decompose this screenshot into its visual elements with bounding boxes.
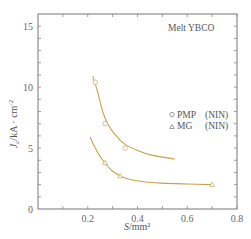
fit-curve-mg: [90, 137, 212, 185]
x-tick-label: 0.6: [181, 213, 194, 224]
legend-item-mg: MG (NIN): [170, 121, 229, 132]
chart-annotation: Melt YBCO: [168, 23, 214, 33]
y-tick-label: 15: [23, 21, 33, 32]
x-axis-label: S/mm²: [124, 221, 150, 232]
legend-tag-mg: (NIN): [205, 121, 228, 132]
legend-item-pmp: PMP (NIN): [170, 110, 228, 121]
legend-label-pmp: PMP: [177, 110, 196, 120]
fit-curve-pmp: [93, 76, 175, 159]
circle-data-point: [103, 121, 108, 126]
x-tick-label: 0.2: [82, 213, 95, 224]
legend-label-mg: MG: [177, 121, 192, 131]
y-axis-label: Jc/kA · cm-2: [7, 99, 21, 148]
legend-tag-pmp: (NIN): [205, 110, 228, 121]
circle-data-point: [93, 80, 98, 85]
circle-data-point: [123, 146, 128, 151]
triangle-data-point: [118, 174, 123, 178]
jc-vs-area-chart: 0.20.40.60.8051015 Melt YBCO PMP (NIN) M…: [0, 0, 251, 239]
y-tick-label: 10: [23, 82, 33, 93]
fit-curves: [90, 76, 212, 184]
circle-marker-icon: [170, 112, 174, 116]
x-tick-label: 0.8: [231, 213, 244, 224]
triangle-marker-icon: [170, 125, 175, 129]
y-tick-label: 5: [28, 143, 33, 154]
y-tick-label: 0: [28, 204, 33, 215]
legend: PMP (NIN) MG (NIN): [170, 110, 229, 132]
